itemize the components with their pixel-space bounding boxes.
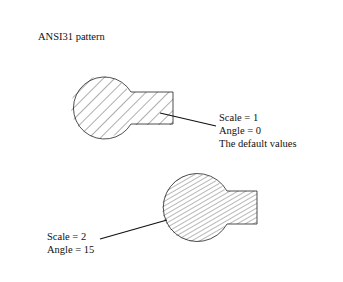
label-angle-15: Angle = 15 bbox=[47, 243, 94, 256]
label-angle-0: Angle = 0 bbox=[219, 124, 261, 137]
shape-scale-1 bbox=[60, 70, 180, 150]
diagram-title: ANSI31 pattern bbox=[38, 30, 105, 43]
label-scale-1: Scale = 1 bbox=[219, 111, 258, 124]
leader-line-2 bbox=[100, 220, 167, 239]
label-default-values: The default values bbox=[219, 137, 297, 150]
shape-scale-2 bbox=[155, 170, 265, 250]
label-scale-2: Scale = 2 bbox=[47, 230, 86, 243]
